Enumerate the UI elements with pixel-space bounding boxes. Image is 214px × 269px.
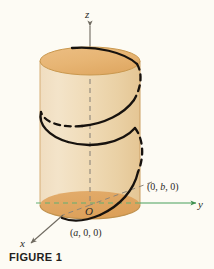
x-axis-line-visible xyxy=(31,215,63,243)
origin-label: O xyxy=(85,206,93,217)
cylinder-top xyxy=(40,47,140,75)
figure-container: z y x O (0, b, 0) (a, 0, 0) FIGURE 1 xyxy=(0,0,214,269)
z-axis-label: z xyxy=(85,9,89,20)
x-axis-label: x xyxy=(20,238,25,249)
figure-caption: FIGURE 1 xyxy=(9,251,62,263)
cylinder-top-face xyxy=(40,47,140,75)
point-label-a: (a, 0, 0) xyxy=(70,228,102,238)
point-label-b: (0, b, 0) xyxy=(147,182,179,192)
figure-graphic xyxy=(0,0,214,269)
y-axis-label: y xyxy=(198,199,203,210)
